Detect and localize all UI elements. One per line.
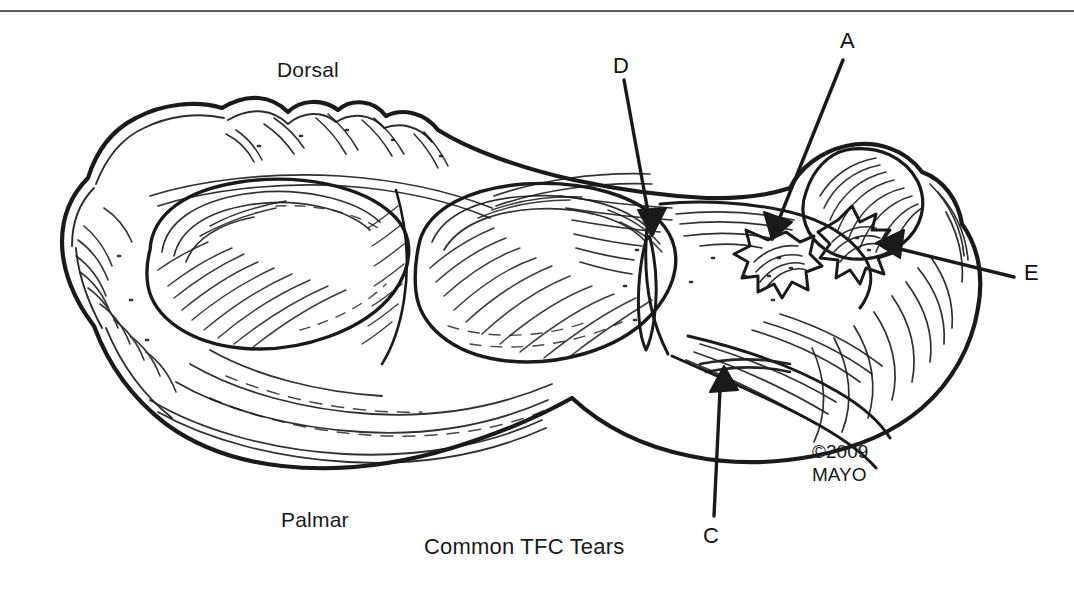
callout-label-a: A [840, 30, 855, 52]
anatomical-line-drawing [0, 0, 1074, 593]
scaphoid-fossa-inner-rim [162, 192, 380, 262]
callout-label-d: D [613, 55, 629, 77]
bone-outline [62, 98, 980, 468]
scaphoid-fossa-dashes [276, 206, 386, 330]
label-palmar: Palmar [281, 508, 349, 533]
tear-lesion-a-star [734, 230, 822, 298]
tear-lesion-a-dots [768, 258, 792, 276]
interfossa-ridge-hatch [362, 206, 404, 344]
dorsal-rim-detail [226, 114, 448, 168]
left-end-striations [76, 208, 176, 392]
scaphoid-fossa [147, 179, 409, 349]
scaphoid-fossa-hatching [158, 201, 346, 348]
figure-caption: Common TFC Tears [424, 534, 624, 560]
palmar-lower-sweep [150, 350, 552, 463]
callout-label-c: C [703, 525, 719, 547]
copyright-owner: MAYO [812, 463, 867, 486]
callout-leader-a [778, 60, 843, 222]
label-dorsal: Dorsal [277, 58, 339, 83]
figure-root: Dorsal Palmar Common TFC Tears ©2009 MAY… [0, 0, 1074, 593]
copyright-year: ©2009 [812, 440, 868, 463]
lunate-fossa [415, 183, 676, 361]
callout-arrowhead-a [764, 212, 792, 240]
callout-leader-e [900, 249, 1014, 277]
callout-leader-c [714, 390, 720, 516]
tear-lesion-c-flap [700, 360, 790, 373]
tear-lesion-a-inner [754, 246, 806, 288]
callout-label-e: E [1024, 262, 1039, 284]
lunate-fossa-dashes [448, 320, 622, 347]
